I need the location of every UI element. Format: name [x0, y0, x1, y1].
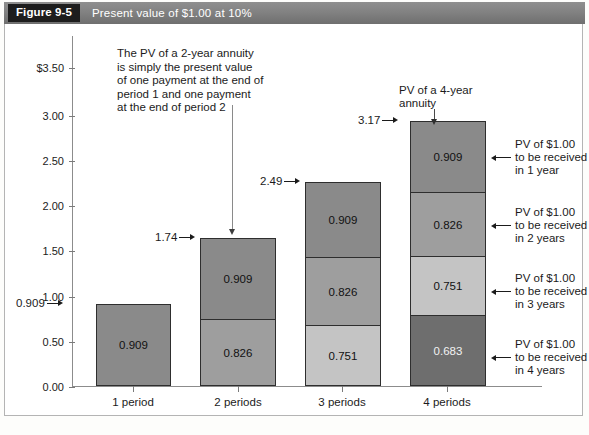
arrow-right-icon: [382, 117, 398, 124]
chart-plot-area: $3.50 3.00 2.50 2.00 1.50 1.00 0.50 0.00…: [0, 0, 589, 435]
annuity-callout-line-1: PV of a 4-year: [399, 84, 509, 97]
callout-4-line-2: to be received: [515, 351, 587, 364]
x-axis-label-4-periods: 4 periods: [392, 396, 502, 408]
y-tick-mark-350: [69, 68, 75, 69]
annuity-callout-line-2: annuity: [399, 97, 509, 110]
annotation-line-3: of one payment at the end of: [117, 74, 307, 88]
y-tick-mark-250: [69, 161, 75, 162]
callout-pv-3-years: PV of $1.00 to be received in 3 years: [491, 272, 587, 311]
arrow-down-icon: [229, 229, 235, 235]
x-axis-label-3-periods: 3 periods: [287, 396, 397, 408]
callout-4-line-3: in 4 years: [515, 364, 587, 377]
bar-3-periods-segment-826[interactable]: 0.826: [305, 257, 381, 326]
annotation-line-4: period 1 and one payment: [117, 88, 307, 102]
arrow-left-icon: [491, 354, 511, 361]
y-tick-label-000: 0.00: [20, 381, 64, 393]
arrow-left-icon: [491, 154, 511, 161]
bar-4-periods-segment-909[interactable]: 0.909: [410, 121, 486, 193]
callout-pv-2-years: PV of $1.00 to be received in 2 years: [491, 206, 587, 245]
bar-3-periods-segment-751[interactable]: 0.751: [305, 325, 381, 386]
annotation-line-2: is simply the present value: [117, 61, 307, 75]
y-tick-mark-050: [69, 342, 75, 343]
annotation-line-5: at the end of period 2: [117, 101, 307, 115]
arrow-down-icon: [431, 119, 437, 125]
x-tick-mark-3: [342, 386, 343, 392]
callout-3-line-3: in 3 years: [515, 298, 587, 311]
y-axis-line: [72, 36, 73, 386]
callout-1-line-1: PV of $1.00: [515, 138, 587, 151]
bar-3-periods-segment-909[interactable]: 0.909: [305, 182, 381, 258]
callout-2-line-1: PV of $1.00: [515, 206, 587, 219]
annuity-explanation-annotation: The PV of a 2-year annuity is simply the…: [117, 47, 307, 115]
callout-3-line-1: PV of $1.00: [515, 272, 587, 285]
callout-pv-4-years: PV of $1.00 to be received in 4 years: [491, 338, 587, 377]
arrow-right-icon: [284, 178, 300, 185]
callout-4-line-1: PV of $1.00: [515, 338, 587, 351]
bar-1-period-segment-909[interactable]: 0.909: [96, 304, 171, 386]
bar-1-period-total: 0.909: [16, 297, 63, 309]
x-axis-line: [72, 386, 542, 387]
bar-4-periods-total: 3.17: [358, 114, 398, 126]
four-year-annuity-callout: PV of a 4-year annuity: [399, 84, 509, 110]
y-tick-mark-100: [69, 297, 75, 298]
bar-2-periods-segment-909[interactable]: 0.909: [200, 238, 276, 320]
arrow-right-icon: [47, 300, 63, 307]
annotation-line-1: The PV of a 2-year annuity: [117, 47, 307, 61]
x-axis-label-1-period: 1 period: [78, 396, 188, 408]
y-tick-label-150: 1.50: [20, 245, 64, 257]
y-tick-label-300: 3.00: [20, 110, 64, 122]
bar-3-periods-total: 2.49: [260, 175, 300, 187]
y-tick-label-200: 2.00: [20, 200, 64, 212]
x-tick-mark-1: [133, 386, 134, 392]
y-tick-label-350: $3.50: [20, 62, 64, 74]
arrow-right-icon: [179, 234, 195, 241]
y-tick-mark-200: [69, 206, 75, 207]
x-axis-label-2-periods: 2 periods: [183, 396, 293, 408]
y-tick-label-250: 2.50: [20, 155, 64, 167]
y-tick-mark-150: [69, 251, 75, 252]
bar-2-periods-total: 1.74: [155, 231, 195, 243]
annotation-leader-line: [232, 105, 233, 230]
arrow-left-icon: [491, 288, 511, 295]
x-tick-mark-4: [447, 386, 448, 392]
bar-4-periods-segment-683[interactable]: 0.683: [410, 315, 486, 386]
x-tick-mark-2: [238, 386, 239, 392]
callout-2-line-2: to be received: [515, 219, 587, 232]
bar-4-periods-segment-751[interactable]: 0.751: [410, 256, 486, 316]
callout-1-line-2: to be received: [515, 151, 587, 164]
y-tick-mark-300: [69, 116, 75, 117]
arrow-left-icon: [491, 222, 511, 229]
callout-2-line-3: in 2 years: [515, 232, 587, 245]
callout-1-line-3: in 1 year: [515, 164, 587, 177]
bar-2-periods-segment-826[interactable]: 0.826: [200, 319, 276, 386]
y-tick-label-050: 0.50: [20, 336, 64, 348]
callout-pv-1-year: PV of $1.00 to be received in 1 year: [491, 138, 587, 177]
bar-4-periods-segment-826[interactable]: 0.826: [410, 192, 486, 257]
callout-3-line-2: to be received: [515, 285, 587, 298]
y-tick-mark-000: [69, 387, 75, 388]
